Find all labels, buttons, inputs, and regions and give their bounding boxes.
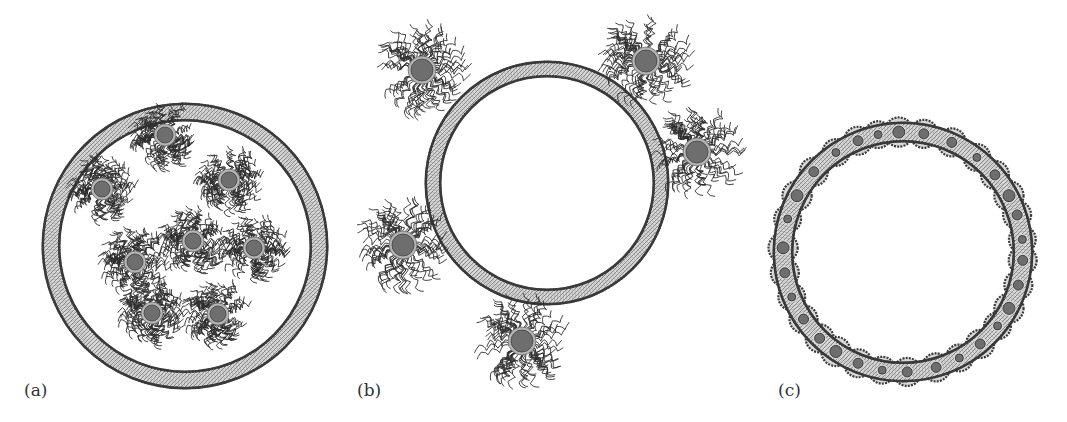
particle-core — [511, 330, 533, 352]
embedded-nanoparticle — [1003, 190, 1015, 202]
embedded-nanoparticle — [931, 362, 941, 372]
embedded-nanoparticle — [788, 293, 796, 301]
embedded-nanoparticle — [1012, 210, 1022, 220]
panel-label-c: (c) — [778, 380, 801, 400]
embedded-nanoparticle — [975, 339, 985, 349]
panel-c-bilayer-embedded — [768, 117, 1036, 385]
particle-core — [221, 172, 237, 188]
polymer-coated-nanoparticle — [181, 280, 252, 350]
polymer-coated-nanoparticle — [193, 146, 263, 217]
panel-b-surface-adsorbed — [357, 15, 746, 389]
bilayer-bulges — [768, 117, 1036, 385]
embedded-nanoparticle — [955, 354, 963, 362]
embedded-nanoparticle — [777, 242, 789, 254]
particle-core — [210, 306, 226, 322]
embedded-nanoparticle — [874, 131, 882, 139]
particle-core — [411, 59, 433, 81]
embedded-nanoparticle — [1018, 255, 1028, 265]
embedded-nanoparticle — [853, 136, 863, 146]
embedded-nanoparticle — [832, 149, 840, 157]
embedded-nanoparticle — [1013, 280, 1023, 290]
embedded-nanoparticle — [973, 153, 981, 161]
particle-core — [127, 254, 143, 270]
embedded-nanoparticle — [893, 126, 905, 138]
embedded-nanoparticle — [830, 345, 842, 357]
particle-core — [157, 127, 173, 143]
embedded-nanoparticle — [947, 137, 957, 147]
embedded-nanoparticle — [791, 190, 803, 202]
particle-core — [392, 234, 414, 256]
embedded-nanoparticle — [784, 215, 792, 223]
embedded-nanoparticle — [878, 366, 886, 374]
embedded-nanoparticle — [994, 322, 1002, 330]
particle-core — [635, 50, 657, 72]
panel-label-a: (a) — [24, 380, 47, 400]
particle-core — [94, 181, 110, 197]
embedded-nanoparticle — [919, 129, 929, 139]
embedded-nanoparticle — [780, 268, 790, 278]
embedded-nanoparticle — [853, 358, 863, 368]
particle-core — [144, 305, 160, 321]
polymer-coated-nanoparticle — [217, 215, 290, 283]
vesicle-membrane — [774, 123, 1032, 381]
embedded-nanoparticle — [1018, 235, 1026, 243]
vesicle-membrane — [426, 62, 668, 304]
polymer-coated-nanoparticle — [118, 279, 188, 349]
embedded-nanoparticle — [990, 170, 1000, 180]
polymer-coated-nanoparticle — [475, 294, 569, 390]
particle-core — [686, 141, 708, 163]
panel-a-encapsulated — [43, 102, 327, 388]
particle-core — [246, 240, 262, 256]
particle-core — [185, 233, 201, 249]
nanoparticle-vesicle-figure — [0, 0, 1067, 422]
embedded-nanoparticle — [799, 314, 809, 324]
panel-label-b: (b) — [357, 380, 381, 400]
embedded-nanoparticle — [809, 167, 819, 177]
embedded-nanoparticle — [1003, 302, 1015, 314]
embedded-nanoparticle — [902, 367, 912, 377]
embedded-nanoparticle — [815, 333, 825, 343]
